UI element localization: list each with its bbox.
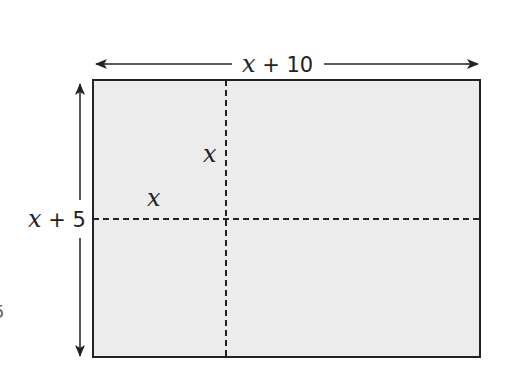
edge-fragment: 5 [0,301,4,322]
width-label: x + 10 [242,50,313,78]
height-label: x + 5 [28,205,86,233]
inner-horizontal-label: x [147,184,161,212]
area-diagram: x + 10 x + 5 x x 5 [0,0,507,373]
inner-vertical-label: x [203,140,217,168]
